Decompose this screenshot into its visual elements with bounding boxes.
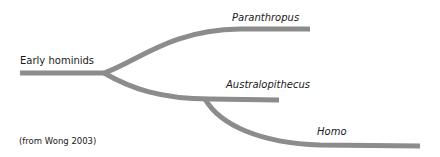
root-label: Early hominids [20, 56, 94, 66]
source-caption: (from Wong 2003) [19, 137, 96, 146]
paranthropus-branch [104, 29, 310, 73]
homo-label: Homo [317, 127, 347, 137]
tree-diagram [0, 0, 440, 157]
paranthropus-label: Paranthropus [232, 13, 299, 23]
australopithecus-label: Australopithecus [226, 80, 310, 90]
homo-branch [205, 99, 420, 146]
